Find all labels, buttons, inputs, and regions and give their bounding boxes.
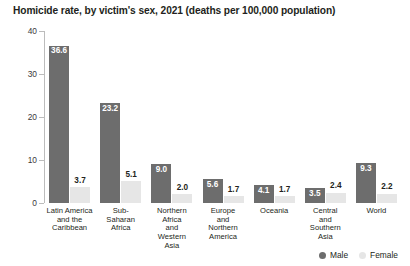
x-axis-category-label: World: [351, 207, 402, 216]
bar-value-label: 9.3: [346, 165, 386, 173]
bar-male[interactable]: [100, 103, 120, 203]
y-axis-tick-label: 20: [11, 113, 37, 121]
x-axis-category-label: Sub-SaharanAfrica: [95, 207, 146, 233]
legend-item-female[interactable]: Female: [359, 250, 398, 260]
category-label-line: Asia: [146, 242, 197, 251]
bar-value-label: 36.6: [39, 47, 79, 55]
y-axis-tick-labels: 010203040: [5, 0, 37, 266]
bar-female[interactable]: [70, 187, 90, 203]
bar-female[interactable]: [377, 194, 397, 203]
x-axis-category-label: Oceania: [249, 207, 300, 216]
bar-value-label: 23.2: [90, 105, 130, 113]
bar-value-label: 2.4: [316, 182, 356, 190]
legend-swatch-icon: [319, 252, 326, 259]
category-label-line: Asia: [300, 233, 351, 242]
bar-female[interactable]: [172, 194, 192, 203]
plot-area: 36.63.723.25.19.02.05.61.74.11.73.52.49.…: [44, 31, 402, 203]
x-axis-category-label: CentralandSouthernAsia: [300, 207, 351, 242]
y-axis-tick: [39, 160, 44, 161]
category-label-line: Africa: [95, 224, 146, 233]
y-axis-tick-label: 40: [11, 27, 37, 35]
x-axis-category-label: EuropeandNorthernAmerica: [197, 207, 248, 242]
legend-item-male[interactable]: Male: [319, 250, 348, 260]
legend-swatch-icon: [359, 252, 366, 259]
category-label-line: America: [197, 233, 248, 242]
y-axis-tick: [39, 31, 44, 32]
y-axis-tick: [39, 203, 44, 204]
bar-female[interactable]: [121, 181, 141, 203]
y-axis-tick-label: 0: [11, 199, 37, 207]
y-axis-tick-label: 10: [11, 156, 37, 164]
bar-value-label: 2.2: [367, 183, 407, 191]
bar-female[interactable]: [275, 196, 295, 203]
x-axis-category-label: NorthernAfricaandWesternAsia: [146, 207, 197, 251]
legend-label: Male: [330, 250, 348, 260]
y-axis-tick-label: 30: [11, 70, 37, 78]
bar-value-label: 9.0: [141, 166, 181, 174]
y-axis-tick: [39, 74, 44, 75]
bar-value-label: 3.7: [60, 177, 100, 185]
category-label-line: Oceania: [249, 207, 300, 216]
chart-title: Homicide rate, by victim's sex, 2021 (de…: [13, 5, 335, 16]
category-label-line: World: [351, 207, 402, 216]
bar-female[interactable]: [224, 196, 244, 203]
chart-legend: MaleFemale: [319, 250, 398, 260]
y-axis-tick: [39, 117, 44, 118]
x-axis-category-label: Latin Americaand theCaribbean: [44, 207, 95, 233]
legend-label: Female: [370, 250, 398, 260]
homicide-rate-bar-chart: Homicide rate, by victim's sex, 2021 (de…: [0, 0, 410, 266]
bar-female[interactable]: [326, 193, 346, 203]
category-label-line: Caribbean: [44, 224, 95, 233]
